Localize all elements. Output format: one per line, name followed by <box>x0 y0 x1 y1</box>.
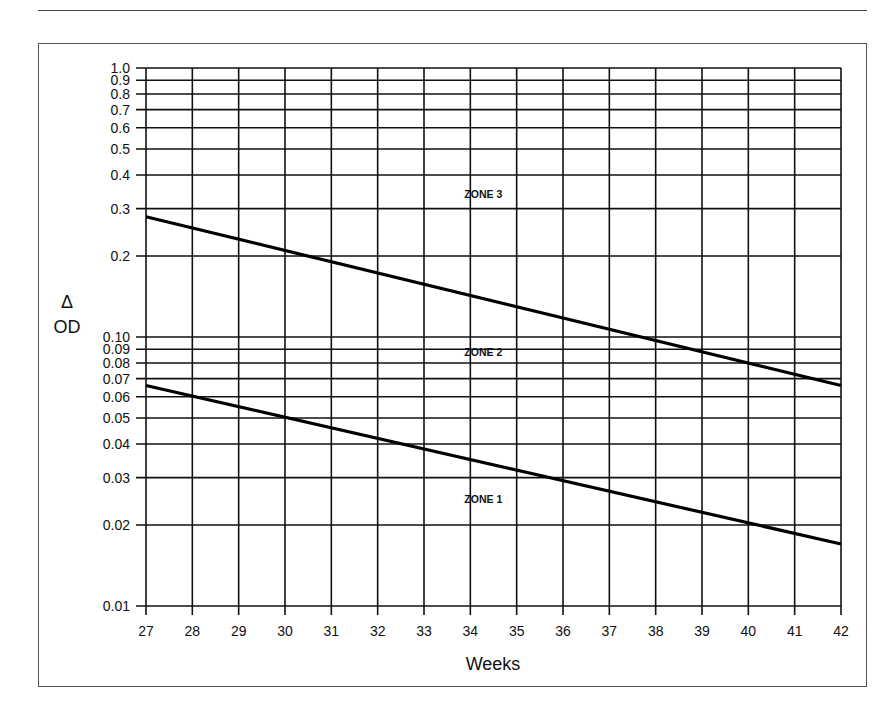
x-tick-label: 38 <box>648 623 664 639</box>
x-axis-tick-labels: 27282930313233343536373839404142 <box>138 623 849 639</box>
y-tick-label: 0.04 <box>103 436 130 452</box>
x-tick-label: 34 <box>463 623 479 639</box>
zone-boundary-line <box>146 217 841 386</box>
zone-label: ZONE 1 <box>464 493 502 505</box>
x-tick-label: 36 <box>555 623 571 639</box>
y-axis-title: OD <box>54 317 81 337</box>
y-tick-label: 0.6 <box>111 120 131 136</box>
x-axis-title: Weeks <box>466 654 521 674</box>
x-tick-label: 30 <box>277 623 293 639</box>
x-tick-label: 29 <box>231 623 247 639</box>
zone-boundary-line <box>146 386 841 544</box>
y-tick-label: 0.05 <box>103 410 130 426</box>
delta-od-chart: 1.00.90.80.70.60.50.40.30.20.100.090.080… <box>0 0 895 720</box>
x-tick-label: 31 <box>324 623 340 639</box>
y-tick-label: 0.03 <box>103 470 130 486</box>
x-tick-label: 32 <box>370 623 386 639</box>
y-tick-label: 0.08 <box>103 355 130 371</box>
vertical-gridlines <box>146 68 841 615</box>
x-tick-label: 28 <box>185 623 201 639</box>
zone-label: ZONE 3 <box>464 188 502 200</box>
y-axis-tick-labels: 1.00.90.80.70.60.50.40.30.20.100.090.080… <box>103 60 130 614</box>
x-tick-label: 41 <box>787 623 803 639</box>
x-tick-label: 27 <box>138 623 154 639</box>
y-tick-label: 0.06 <box>103 389 130 405</box>
horizontal-gridlines <box>136 68 841 606</box>
y-tick-label: 0.4 <box>111 167 131 183</box>
zone-label: ZONE 2 <box>464 346 502 358</box>
x-tick-label: 37 <box>602 623 618 639</box>
x-tick-label: 42 <box>833 623 849 639</box>
y-tick-label: 0.3 <box>111 201 131 217</box>
y-tick-label: 0.5 <box>111 141 131 157</box>
y-tick-label: 0.07 <box>103 371 130 387</box>
x-tick-label: 33 <box>416 623 432 639</box>
y-tick-label: 0.7 <box>111 102 131 118</box>
y-tick-label: 0.8 <box>111 86 131 102</box>
x-tick-label: 35 <box>509 623 525 639</box>
y-tick-label: 0.2 <box>111 248 131 264</box>
y-tick-label: 0.01 <box>103 598 130 614</box>
x-tick-label: 39 <box>694 623 710 639</box>
y-tick-label: 0.02 <box>103 517 130 533</box>
y-axis-delta-symbol: Δ <box>61 292 73 312</box>
x-tick-label: 40 <box>741 623 757 639</box>
